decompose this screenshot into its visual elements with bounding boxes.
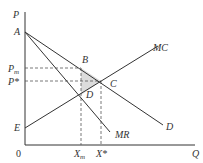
mc-curve <box>25 46 158 128</box>
xm-label: Xm <box>73 148 85 161</box>
y-axis-label: P <box>12 9 19 20</box>
xstar-label: X* <box>95 148 107 159</box>
mr-curve-label: MR <box>114 129 129 140</box>
point-b-label: B <box>82 54 88 65</box>
origin-label: 0 <box>16 148 21 159</box>
pstar-label: P* <box>7 76 19 87</box>
diagram-canvas: P Q 0 Pm P* Xm X* A B C D E MC D MR <box>0 0 203 163</box>
point-e-label: E <box>13 122 20 133</box>
pm-label: Pm <box>7 63 19 76</box>
x-axis-label: Q <box>192 148 200 159</box>
point-a-label: A <box>13 26 21 37</box>
point-c-label: C <box>110 78 117 89</box>
point-d-label: D <box>85 89 94 100</box>
mc-curve-label: MC <box>152 42 168 53</box>
demand-curve <box>25 32 163 125</box>
demand-curve-label: D <box>165 121 174 132</box>
economics-diagram: P Q 0 Pm P* Xm X* A B C D E MC D MR <box>0 0 203 163</box>
